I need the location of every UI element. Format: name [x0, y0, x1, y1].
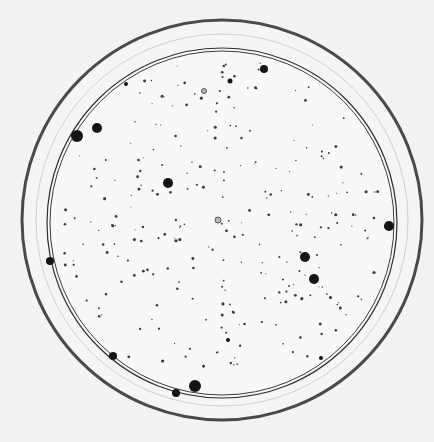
colony-speck	[105, 159, 107, 161]
colony-speck	[233, 75, 236, 78]
colony	[300, 252, 310, 262]
colony	[384, 221, 394, 231]
colony-speck	[228, 220, 230, 222]
colony-speck	[286, 261, 287, 262]
colony-speck	[214, 126, 217, 129]
colony-speck	[295, 223, 297, 225]
colony-speck	[169, 191, 172, 194]
colony-speck	[335, 329, 337, 331]
colony-speck	[374, 191, 376, 193]
colony-speck	[291, 230, 293, 232]
colony-speck	[185, 356, 187, 358]
colony-speck	[262, 262, 263, 263]
colony-speck	[74, 217, 76, 219]
colony-speck	[117, 256, 119, 258]
colony-speck	[177, 66, 178, 67]
colony-speck	[372, 271, 375, 274]
colony-speck	[202, 186, 205, 189]
colony-speck	[240, 137, 242, 139]
colony-speck	[321, 155, 323, 157]
colony-speck	[221, 286, 223, 288]
colony-speck	[304, 99, 307, 102]
colony-speck	[151, 190, 153, 192]
colony-speck	[163, 233, 166, 236]
colony-speck	[239, 324, 240, 325]
colony-speck	[267, 213, 270, 216]
colony-speck	[221, 327, 223, 329]
colony-speck	[106, 251, 109, 254]
colony-speck	[175, 219, 177, 221]
colony-speck	[221, 71, 224, 74]
colony-speck	[222, 196, 224, 198]
colony-speck	[176, 287, 179, 290]
colony-speck	[312, 124, 313, 125]
colony-speck	[64, 223, 66, 225]
colony-speck	[323, 158, 325, 160]
colony-speck	[234, 357, 235, 358]
colony-speck	[304, 275, 305, 276]
colony-speck	[285, 291, 287, 293]
colony-speck	[98, 315, 101, 318]
colony-speck	[342, 182, 343, 183]
colony-speck	[225, 63, 227, 65]
colony-speck	[191, 257, 194, 260]
colony-speck	[208, 246, 209, 247]
colony-speck	[249, 130, 251, 132]
colony-speck	[242, 234, 244, 236]
colony-speck	[264, 191, 266, 193]
colony-speck	[320, 226, 322, 228]
colony	[71, 130, 83, 142]
colony-speck	[225, 332, 227, 334]
colony-speck	[260, 63, 261, 64]
colony	[226, 338, 230, 342]
colony-speck	[223, 65, 226, 68]
colony-speck	[153, 149, 155, 151]
colony-speck	[321, 286, 323, 288]
colony-speck	[179, 227, 180, 228]
colony-speck	[114, 180, 115, 181]
colony-speck	[146, 268, 149, 271]
colony-speck	[306, 147, 308, 149]
colony-speck	[178, 85, 179, 86]
colony-speck	[236, 363, 238, 365]
colony-speck	[174, 238, 175, 239]
colony-speck	[230, 125, 232, 127]
colony-speck	[326, 293, 328, 295]
colony-speck	[226, 147, 228, 149]
colony-speck	[258, 68, 260, 70]
colony-speck	[275, 324, 277, 326]
colony-speck	[127, 259, 129, 261]
colony-speck	[207, 130, 208, 131]
colony-speck	[64, 263, 67, 266]
colony-speck	[357, 295, 359, 297]
colony-speck	[114, 225, 115, 226]
colony-speck	[140, 240, 143, 243]
colony-speck	[105, 293, 107, 295]
colony-speck	[295, 90, 296, 91]
colony-speck	[151, 80, 152, 81]
colony-speck	[139, 92, 141, 94]
colony-speck	[139, 170, 141, 172]
colony-speck	[143, 80, 146, 83]
colony-speck	[233, 312, 235, 314]
colony-speck	[143, 157, 144, 158]
colony-speck	[192, 298, 194, 300]
colony-speck	[355, 214, 356, 215]
colony-speck	[133, 274, 136, 277]
colony-speck	[299, 251, 301, 253]
colony-speck	[136, 175, 139, 178]
colony-speck	[233, 364, 234, 365]
colony-speck	[265, 273, 266, 274]
colony	[309, 274, 319, 284]
colony-speck	[224, 290, 225, 291]
colony-speck	[307, 193, 310, 196]
colony-speck	[75, 275, 78, 278]
colony-speck	[241, 222, 242, 223]
colony-speck	[223, 171, 225, 173]
colony-speck	[259, 244, 260, 245]
colony-speck	[156, 304, 158, 306]
colony-speck	[360, 173, 362, 175]
colony-speck	[205, 319, 207, 321]
colony-speck	[157, 237, 159, 239]
colony-speck	[90, 221, 91, 222]
